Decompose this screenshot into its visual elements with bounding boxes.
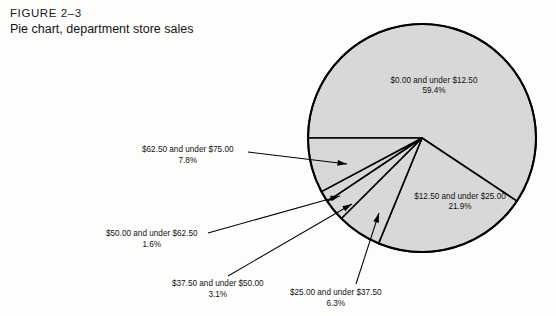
leader-line: [208, 196, 340, 233]
slice-callout-percent: 1.6%: [106, 240, 198, 251]
leader-line: [228, 204, 352, 276]
slice-callout-label: $62.50 and under $75.00: [142, 145, 234, 154]
slice-callout-37-50-50-00: $37.50 and under $50.00 3.1%: [172, 279, 264, 300]
slice-inside-percent: 21.9%: [448, 202, 471, 211]
figure-root: FIGURE 2–3 Pie chart, department store s…: [0, 0, 556, 316]
slice-callout-25-00-37-50: $25.00 and under $37.50 6.3%: [290, 288, 382, 309]
pie-chart: $0.00 and under $12.5059.4%$12.50 and un…: [0, 0, 556, 316]
slice-callout-62-50-75-00: $62.50 and under $75.00 7.8%: [142, 145, 234, 166]
slice-callout-label: $25.00 and under $37.50: [290, 288, 382, 297]
slice-inside-label: $0.00 and under $12.50: [391, 76, 478, 85]
slice-inside-percent: 59.4%: [422, 86, 445, 95]
slice-callout-percent: 6.3%: [290, 299, 382, 310]
slice-callout-percent: 7.8%: [142, 156, 234, 167]
pie-slices: [308, 24, 536, 252]
slice-callout-50-00-62-50: $50.00 and under $62.50 1.6%: [106, 229, 198, 250]
slice-callout-label: $50.00 and under $62.50: [106, 229, 198, 238]
slice-callout-percent: 3.1%: [172, 290, 264, 301]
slice-inside-label: $12.50 and under $25.00: [414, 192, 506, 201]
slice-callout-label: $37.50 and under $50.00: [172, 279, 264, 288]
